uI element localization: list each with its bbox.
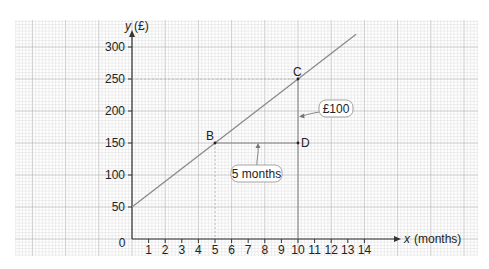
y-tick-label: 150: [105, 136, 125, 150]
callout-5-months-text: 5 months: [232, 167, 281, 181]
x-tick-label: 14: [358, 243, 372, 257]
x-tick-label: 6: [228, 243, 235, 257]
x-tick-label: 4: [195, 243, 202, 257]
x-tick-label: 9: [278, 243, 285, 257]
y-tick-label: 50: [112, 200, 126, 214]
x-tick-label: 8: [261, 243, 268, 257]
y-tick-label: 250: [105, 72, 125, 86]
x-tick-label: 1: [145, 243, 152, 257]
x-tick-label: 10: [291, 243, 305, 257]
x-tick-label: 3: [178, 243, 185, 257]
x-tick-label: 5: [212, 243, 219, 257]
chart: 1234567891011121314501001502002503000y(£…: [0, 0, 489, 269]
point-c-label: C: [293, 65, 302, 79]
point-b-label: B: [206, 129, 214, 143]
x-tick-label: 7: [245, 243, 252, 257]
y-tick-label: 300: [105, 40, 125, 54]
point-d-label: D: [301, 136, 310, 150]
point-d-marker: [297, 142, 300, 145]
callout-100-pounds-text: £100: [323, 102, 350, 116]
grid-paper: [15, 20, 478, 256]
y-axis-title: y(£): [124, 19, 149, 33]
x-tick-label: 13: [341, 243, 355, 257]
x-tick-label: 11: [308, 243, 321, 257]
y-tick-label: 200: [105, 104, 125, 118]
point-b-marker: [214, 142, 217, 145]
origin-label: 0: [119, 236, 126, 250]
x-tick-label: 12: [325, 243, 339, 257]
x-tick-label: 2: [162, 243, 169, 257]
y-tick-label: 100: [105, 168, 125, 182]
